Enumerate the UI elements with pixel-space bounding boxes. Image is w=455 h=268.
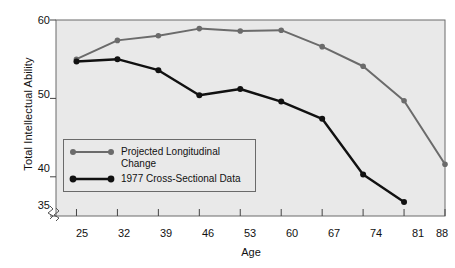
chart-figure: Total Intellectual Ability Age 60 50 40 … [0, 0, 455, 268]
data-point-marker [156, 33, 162, 39]
legend-sample-marker-crosssectional [70, 176, 77, 183]
data-point-marker [197, 26, 203, 32]
plot-area [0, 0, 455, 268]
data-point-marker [73, 59, 79, 65]
legend-label-projected-line1: Projected Longitudinal [121, 146, 220, 158]
legend-label-crosssectional: 1977 Cross-Sectional Data [121, 173, 241, 185]
legend-sample-marker-crosssectional [108, 176, 115, 183]
legend-sample-marker-projected [108, 149, 114, 155]
legend-label-projected-line2: Change [121, 158, 156, 170]
data-point-marker [319, 116, 325, 122]
legend-sample-marker-projected [70, 149, 76, 155]
data-point-marker [114, 56, 120, 62]
data-point-marker [401, 199, 407, 205]
data-point-marker [155, 67, 161, 73]
chart-legend: Projected Longitudinal Change 1977 Cross… [63, 139, 256, 192]
data-point-marker [442, 161, 448, 167]
data-point-marker [360, 171, 366, 177]
data-point-marker [115, 38, 121, 44]
data-point-marker [278, 99, 284, 105]
data-point-marker [237, 86, 243, 92]
data-point-marker [237, 28, 243, 34]
data-point-marker [360, 63, 366, 69]
data-point-marker [196, 92, 202, 98]
data-point-marker [319, 44, 325, 50]
data-point-marker [278, 27, 284, 33]
data-point-marker [401, 98, 407, 104]
